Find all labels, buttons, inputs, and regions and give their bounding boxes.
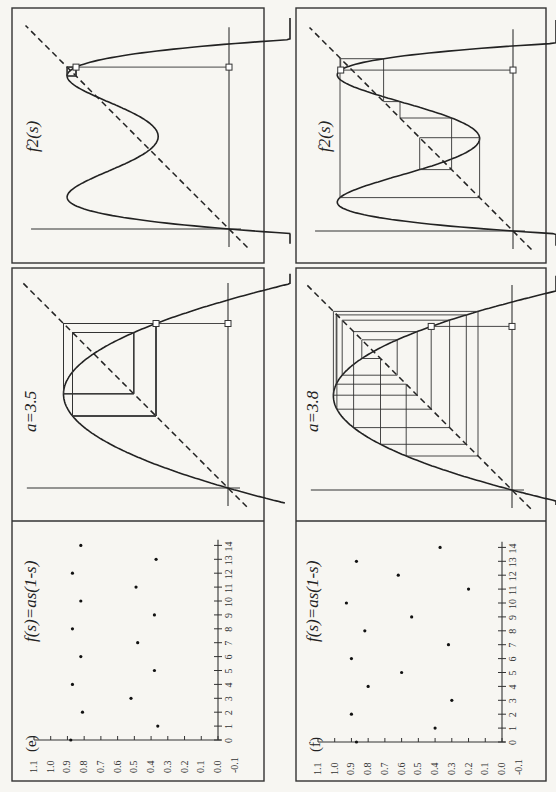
series-f-data-point [467, 588, 470, 591]
series-e-data-point [71, 683, 74, 686]
series-e-iteration-tick-label: 12 [223, 569, 234, 579]
series-e-value-tick-label: 0.5 [128, 761, 139, 774]
cobweb-f-map-curve [333, 276, 556, 505]
series-f-data-point [355, 740, 358, 743]
series-f-value-tick-label: 0.0 [496, 763, 507, 776]
series-f-value-tick-label: 0.6 [396, 763, 407, 776]
cobweb-f-start-marker [509, 323, 515, 329]
series-f-data-point [410, 615, 413, 618]
series-f-iteration-tick-label: 6 [507, 657, 518, 662]
series-e-iteration-tick-label: 7 [223, 641, 234, 646]
series-f-iteration-tick-label: 13 [507, 557, 518, 567]
series-f-iteration-tick-label: 3 [507, 698, 518, 703]
series-e-data-point [154, 558, 157, 561]
cobweb-e-start-marker [225, 321, 231, 327]
series-e-iteration-tick-label: 8 [223, 627, 234, 632]
f2-f-map-curve [337, 20, 556, 246]
series-e-iteration-tick-label: 13 [223, 555, 234, 565]
f2-f-cobweb-path [340, 58, 513, 198]
series-e-iteration-tick-label: 14 [223, 541, 234, 551]
series-f-iteration-tick-label: 4 [507, 684, 518, 689]
series-e-data-point [136, 641, 139, 644]
series-e-iteration-tick-label: 1 [223, 724, 234, 729]
series-e-value-tick-label: 0.1 [195, 761, 206, 774]
f2-label-f: f2(s) [315, 121, 334, 153]
series-f-value-tick-label: 0.9 [345, 763, 356, 776]
series-e-value-tick-label: 0.9 [61, 761, 72, 774]
series-f-data-point [367, 685, 370, 688]
series-f-value-tick-label: 0.7 [379, 763, 390, 776]
series-f-value-tick-label: 1.1 [312, 763, 323, 776]
series-f-value-tick-label: 0.3 [446, 763, 457, 776]
a-label-f: a=3.8 [303, 390, 322, 432]
series-f-iteration-tick-label: 11 [507, 585, 518, 595]
f2-e-map-curve [67, 18, 290, 244]
series-e-data-point [79, 599, 82, 602]
series-f-data-point [397, 574, 400, 577]
series-f-data-point [363, 629, 366, 632]
f2-label-e: f2(s) [23, 121, 42, 153]
series-e-value-tick-label: 1.0 [45, 761, 56, 774]
series-f-iteration-tick-label: 7 [507, 643, 518, 648]
series-f-value-tick-label: 0.8 [362, 763, 373, 776]
series-e-iteration-tick-label: 11 [223, 583, 234, 593]
f2-f-curve-marker [338, 67, 344, 73]
series-f-iteration-tick-label: 8 [507, 629, 518, 634]
series-f-iteration-tick-label: 0 [507, 740, 518, 745]
series-f-iteration-tick-label: 12 [507, 571, 518, 581]
panel-label-e: (e) [23, 735, 40, 752]
series-f-data-point [433, 727, 436, 730]
series-e-iteration-tick-label: 6 [223, 655, 234, 660]
series-e-data-point [134, 586, 137, 589]
series-e-value-tick-label: 0.7 [95, 761, 106, 774]
series-e-data-point [71, 572, 74, 575]
f2-f-start-marker [510, 67, 516, 73]
series-e-data-point [129, 697, 132, 700]
series-e-iteration-tick-label: 5 [223, 669, 234, 674]
series-e-data-point [153, 613, 156, 616]
cobweb-e-cobweb-path [64, 324, 229, 417]
series-f-data-point [355, 560, 358, 563]
series-e-value-tick-label: 0.2 [179, 761, 190, 774]
map-label-f: f(s)=as(1-s) [303, 560, 322, 642]
cobweb-e-map-curve [64, 274, 291, 503]
cobweb-f-identity-line [305, 283, 531, 509]
series-e-value-tick-label: 0.8 [78, 761, 89, 774]
panel-f: 1.11.00.90.80.70.60.50.40.30.20.10.0-0.1… [305, 20, 556, 775]
cobweb-f-cobweb-path [333, 311, 512, 456]
series-f-value-tick-label: 1.0 [329, 763, 340, 776]
series-f-data-point [447, 643, 450, 646]
series-e-iteration-tick-label: 4 [223, 682, 234, 687]
series-f-value-tick-label: 0.2 [463, 763, 474, 776]
series-f-data-point [345, 601, 348, 604]
series-e-data-point [153, 669, 156, 672]
map-label-e: f(s)=as(1-s) [21, 560, 40, 642]
series-f-iteration-tick-label: 2 [507, 712, 518, 717]
cobweb-e-curve-marker [153, 321, 159, 327]
series-f-iteration-tick-label: 1 [507, 726, 518, 731]
series-e-data-point [156, 725, 159, 728]
cobweb-f-curve-marker [428, 323, 434, 329]
f2-e-identity-line [26, 26, 248, 248]
frame-e-f2 [12, 8, 264, 263]
series-e-iteration-tick-label: 9 [223, 613, 234, 618]
series-e-iteration-tick-label: 0 [223, 738, 234, 743]
series-e-value-tick-label: 0.4 [145, 761, 156, 774]
series-e-value-tick-label: 0.6 [112, 761, 123, 774]
series-f-value-tick-label: 0.5 [412, 763, 423, 776]
panel-label-f: (f) [307, 737, 324, 752]
f2-f-identity-line [310, 28, 532, 250]
series-e-data-point [79, 544, 82, 547]
series-e-data-point [69, 738, 72, 741]
series-f-iteration-tick-label: 5 [507, 671, 518, 676]
series-f-data-point [350, 657, 353, 660]
panel-e: 1.11.00.90.80.70.60.50.40.30.20.10.0-0.1… [21, 18, 290, 773]
series-e-value-tick-label: 0.3 [162, 761, 173, 774]
series-f-data-point [450, 699, 453, 702]
series-e-value-tick-label: -0.1 [229, 757, 240, 773]
series-f-iteration-tick-label: 10 [507, 599, 518, 609]
frame-e-main [12, 268, 264, 781]
f2-e-cobweb-path [67, 67, 229, 76]
series-f-data-point [350, 713, 353, 716]
series-f-iteration-tick-label: 14 [507, 543, 518, 553]
